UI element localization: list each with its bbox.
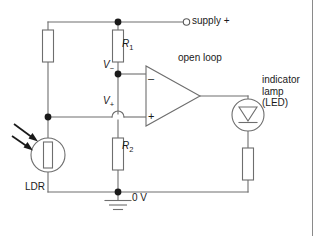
r2-label-subscript: 2 <box>129 145 133 154</box>
r2-label: R2 <box>122 140 133 156</box>
noninverting-input-wire <box>48 111 146 117</box>
v-minus-subscript: − <box>110 64 114 73</box>
open-loop-label: open loop <box>178 52 222 64</box>
v-plus-subscript: + <box>110 100 114 109</box>
supply-label: supply + <box>192 15 230 27</box>
ldr-label: LDR <box>25 181 45 193</box>
node-ground <box>115 189 122 196</box>
v-minus-letter: V <box>103 59 110 70</box>
v-plus-label: V+ <box>103 95 114 111</box>
node-inverting-input <box>115 71 122 78</box>
r1-label: R1 <box>122 38 133 54</box>
indicator-lamp-line3: (LED) <box>262 97 288 108</box>
ground-label: 0 V <box>132 192 147 204</box>
v-minus-label: V− <box>103 59 114 75</box>
resistor-left-fixed <box>43 30 54 62</box>
supply-positive-terminal <box>183 19 189 25</box>
v-plus-letter: V <box>103 95 110 106</box>
opamp-inverting-sign: – <box>148 73 154 84</box>
indicator-lamp-label: indicatorlamp(LED) <box>262 74 300 109</box>
node-ldr-noninverting <box>45 114 52 121</box>
circuit-schematic-svg <box>0 0 327 236</box>
opamp-noninverting-sign: + <box>148 111 154 122</box>
indicator-lamp-line2: lamp <box>262 86 284 97</box>
led-component <box>232 99 264 131</box>
indicator-lamp-line1: indicator <box>262 74 300 85</box>
r1-label-subscript: 1 <box>129 43 133 52</box>
node-supply-r1 <box>115 19 122 26</box>
circuit-diagram: supply + open loop R1 R2 V− V+ indicator… <box>0 0 327 236</box>
resistor-led-series <box>243 148 254 180</box>
ldr-component <box>31 138 65 172</box>
